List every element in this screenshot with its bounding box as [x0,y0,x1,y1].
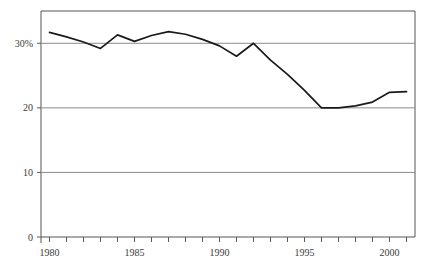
chart-background [0,0,448,277]
x-tick-label-1990: 1990 [210,247,230,258]
x-tick-label-2000: 2000 [380,247,400,258]
y-tick-label-10: 10 [23,167,33,178]
chart-container: 0102030% 19801985199019952000 [0,0,448,277]
line-chart: 0102030% 19801985199019952000 [0,0,448,277]
x-tick-label-1980: 1980 [40,247,60,258]
y-tick-label-0: 0 [28,232,33,243]
x-tick-label-1985: 1985 [125,247,145,258]
x-tick-label-1995: 1995 [295,247,315,258]
y-tick-label-30: 30% [15,38,33,49]
y-tick-label-20: 20 [23,102,33,113]
